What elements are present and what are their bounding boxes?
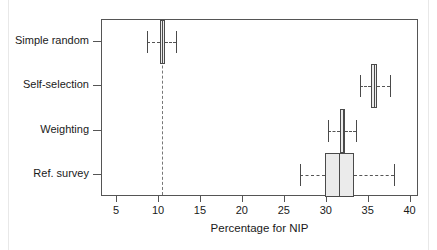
x-axis-tick xyxy=(410,196,411,202)
x-axis-tick xyxy=(200,196,201,202)
x-axis-tick-label: 25 xyxy=(264,203,304,217)
whisker-low-cap xyxy=(328,120,329,142)
y-axis-label-3: Weighting xyxy=(40,123,89,136)
x-axis-tick xyxy=(158,196,159,202)
median-line xyxy=(339,153,340,197)
whisker-high-line xyxy=(377,86,390,87)
plot-frame xyxy=(101,19,418,196)
whisker-high-cap xyxy=(390,75,391,97)
whisker-high-cap xyxy=(176,31,177,53)
y-axis-label-4: Ref. survey xyxy=(33,167,89,180)
y-axis-tick xyxy=(93,85,101,86)
whisker-high-cap xyxy=(394,164,395,186)
x-axis-tick-label: 10 xyxy=(138,203,178,217)
whisker-low-line xyxy=(147,42,160,43)
y-axis-label-2: Self-selection xyxy=(23,78,89,91)
whisker-high-line xyxy=(165,42,176,43)
x-axis-tick-label: 20 xyxy=(222,203,262,217)
y-axis-tick xyxy=(93,174,101,175)
x-axis-tick xyxy=(368,196,369,202)
whisker-low-line xyxy=(300,175,325,176)
median-line xyxy=(374,64,375,108)
whisker-low-cap xyxy=(300,164,301,186)
page-edge-left xyxy=(8,0,9,250)
plot-area xyxy=(102,20,417,195)
x-axis-tick xyxy=(242,196,243,202)
x-axis-label: Percentage for NIP xyxy=(101,222,418,234)
x-axis-tick xyxy=(326,196,327,202)
y-axis-tick xyxy=(93,130,101,131)
x-axis-tick-label: 5 xyxy=(96,203,136,217)
median-line xyxy=(162,20,163,64)
y-axis-label-1: Simple random xyxy=(15,34,89,47)
whisker-low-cap xyxy=(360,75,361,97)
whisker-high-line xyxy=(354,175,394,176)
x-axis-tick xyxy=(116,196,117,202)
whisker-high-cap xyxy=(356,120,357,142)
x-axis-tick xyxy=(284,196,285,202)
x-axis-tick-label: 40 xyxy=(390,203,430,217)
boxplot-figure: Simple randomSelf-selectionWeightingRef.… xyxy=(0,0,437,250)
x-axis-tick-label: 15 xyxy=(180,203,220,217)
x-axis-tick-label: 35 xyxy=(348,203,388,217)
whisker-low-line xyxy=(360,86,371,87)
whisker-low-line xyxy=(328,131,341,132)
x-axis-tick-label: 30 xyxy=(306,203,346,217)
whisker-low-cap xyxy=(147,31,148,53)
median-line xyxy=(343,109,344,153)
y-axis-tick xyxy=(93,41,101,42)
whisker-high-line xyxy=(345,131,356,132)
